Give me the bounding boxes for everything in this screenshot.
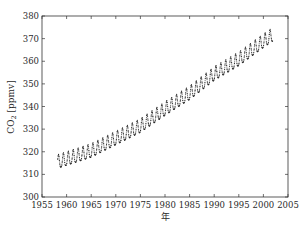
y-tick-label: 360 bbox=[23, 56, 39, 66]
y-tick-label: 330 bbox=[23, 124, 39, 134]
x-tick-label: 1975 bbox=[130, 200, 152, 210]
y-tick-label: 350 bbox=[23, 79, 39, 89]
x-tick-label: 1965 bbox=[80, 200, 102, 210]
y-tick-label: 340 bbox=[23, 102, 39, 112]
x-tick-label: 1985 bbox=[179, 200, 201, 210]
x-tick-label: 1960 bbox=[56, 200, 78, 210]
plot-frame bbox=[42, 16, 288, 197]
y-tick-label: 380 bbox=[23, 11, 39, 21]
x-tick-label: 1995 bbox=[228, 200, 250, 210]
co2-chart: 300310320330340350360370380 195519601965… bbox=[0, 0, 308, 232]
y-axis-label-co: CO bbox=[6, 119, 16, 133]
x-tick-label: 1990 bbox=[203, 200, 225, 210]
x-tick-label: 1970 bbox=[105, 200, 127, 210]
y-axis-label-unit: [ppmv] bbox=[6, 80, 16, 115]
y-tick-label: 320 bbox=[23, 147, 39, 157]
x-tick-label: 2000 bbox=[253, 200, 275, 210]
x-tick-label: 1955 bbox=[31, 200, 53, 210]
y-tick-label: 370 bbox=[23, 34, 39, 44]
x-tick-label: 2005 bbox=[277, 200, 299, 210]
x-axis-label: 年 bbox=[161, 211, 170, 222]
x-tick-label: 1980 bbox=[154, 200, 176, 210]
y-tick-label: 310 bbox=[23, 169, 39, 179]
y-axis-label: CO2 [ppmv] bbox=[6, 80, 18, 133]
